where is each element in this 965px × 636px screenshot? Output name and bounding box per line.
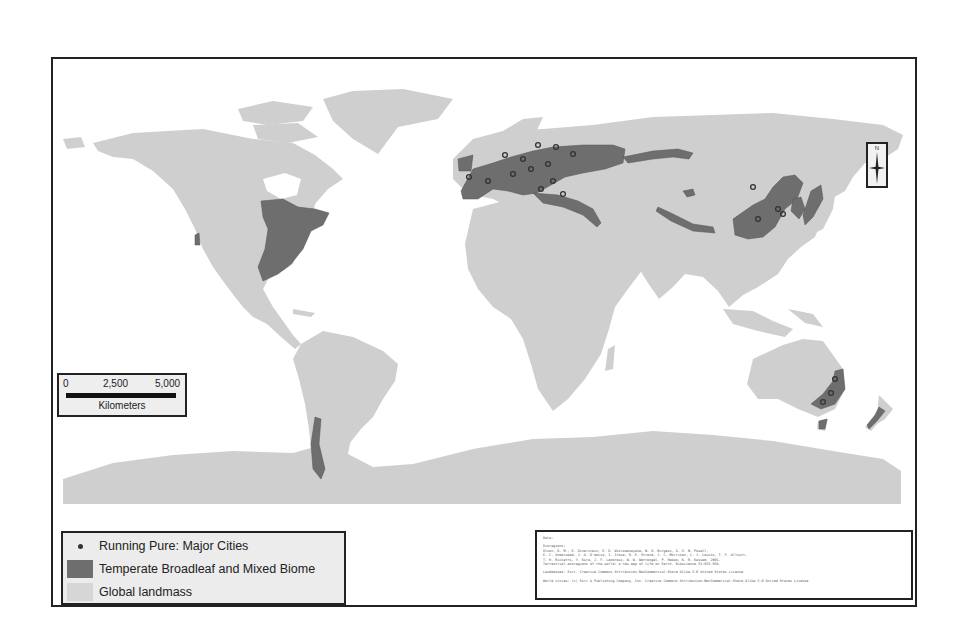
landmass-layer: [63, 89, 903, 504]
legend-label: Running Pure: Major Cities: [99, 539, 248, 553]
scale-tick-0: 0: [63, 378, 69, 389]
scale-tick-2500: 2,500: [103, 378, 128, 389]
legend-label: Temperate Broadleaf and Mixed Biome: [99, 562, 315, 576]
landmass-swatch-icon: [67, 583, 93, 601]
legend-item-landmass: Global landmass: [63, 581, 192, 603]
legend-item-cities: Running Pure: Major Cities: [63, 535, 248, 557]
compass-rose-icon: [868, 150, 886, 186]
scale-tick-5000: 5,000: [155, 378, 180, 389]
scale-bar: 0 2,500 5,000 Kilometers: [57, 373, 187, 417]
map-legend: Running Pure: Major Cities Temperate Bro…: [61, 531, 346, 605]
scale-unit: Kilometers: [59, 400, 185, 411]
credits-line: World cities: (c) Esri & Publishing Comp…: [543, 579, 905, 583]
legend-item-biome: Temperate Broadleaf and Mixed Biome: [63, 558, 315, 580]
world-map: [53, 59, 915, 605]
north-arrow: N: [866, 142, 888, 188]
map-frame: 0 2,500 5,000 Kilometers N Running Pure:…: [51, 57, 917, 607]
scale-bar-line: [66, 393, 176, 398]
data-credits: Data: Ecoregions: Olson, D. M., E. Diner…: [535, 530, 913, 600]
biome-swatch-icon: [67, 560, 93, 578]
city-dot-icon: [78, 544, 83, 549]
legend-label: Global landmass: [99, 585, 192, 599]
